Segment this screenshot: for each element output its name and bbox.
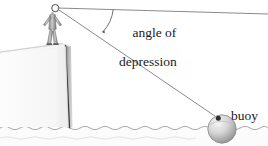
buoy-text-label: buoy <box>231 109 258 124</box>
angle-of-depression-label: angle of depression <box>119 11 177 98</box>
observer-person <box>43 5 61 46</box>
angle-arc <box>104 10 114 32</box>
angle-label-line-2: depression <box>119 55 177 70</box>
angle-label-line-1: angle of <box>133 25 177 40</box>
angle-arc-arrowhead <box>102 31 105 34</box>
angle-of-depression-figure: angle of depression buoy <box>0 0 268 146</box>
cliff <box>0 44 73 128</box>
